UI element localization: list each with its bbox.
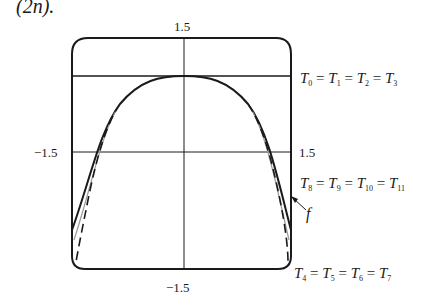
t-mid-label: T8 = T9 = T10 = T11	[300, 176, 405, 193]
top-tick-label: 1.5	[174, 20, 190, 33]
f-curve	[72, 76, 291, 230]
right-tick-label: 1.5	[299, 146, 315, 159]
t-top-label: T0 = T1 = T2 = T3	[300, 71, 397, 88]
bounding-rounded-box	[72, 38, 291, 269]
bottom-tick-label: −1.5	[166, 281, 190, 294]
t-bottom-label: T4 = T5 = T6 = T7	[294, 266, 391, 283]
t8-curve	[74, 104, 289, 240]
left-tick-label: −1.5	[34, 146, 58, 159]
f-label: f	[306, 206, 310, 222]
approximation-diagram	[0, 0, 446, 303]
